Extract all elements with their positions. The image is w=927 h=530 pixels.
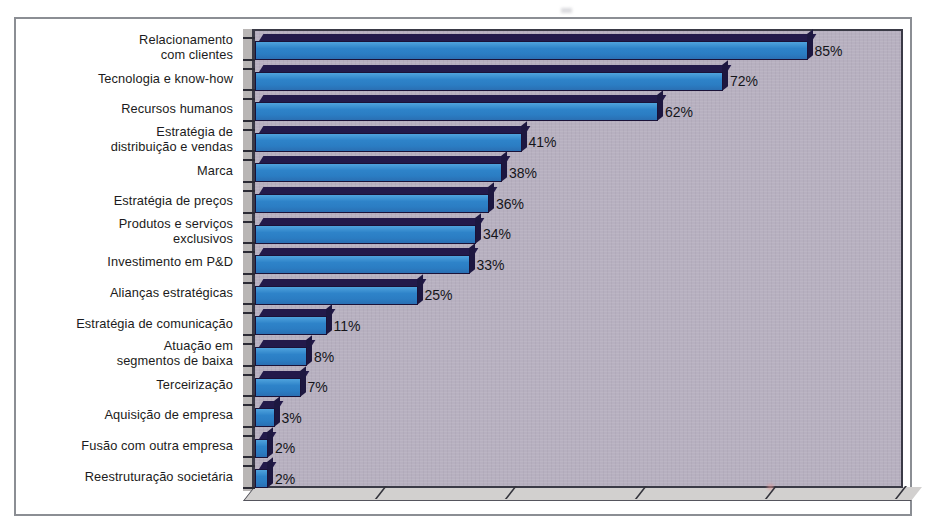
bar-value-label: 85% (815, 43, 843, 59)
category-tick-mark (243, 98, 255, 100)
bar-value-label: 3% (282, 410, 302, 426)
category-label: Alianças estratégicas (110, 285, 233, 300)
category-tick-mark (243, 465, 255, 467)
category-label: Reestruturação societária (85, 468, 233, 483)
category-tick-mark (243, 426, 255, 428)
category-label: Fusão com outra empresa (81, 438, 233, 453)
category-tick-mark (243, 404, 255, 406)
category-tick-mark (243, 312, 255, 314)
bar-value-label: 36% (496, 196, 524, 212)
bar: 3% (255, 408, 275, 427)
bar: 8% (255, 347, 307, 366)
category-tick-mark (243, 374, 255, 376)
bar-row: Tecnologia e know-how72% (255, 63, 901, 94)
category-label: Relacionamento com clientes (139, 32, 233, 62)
bar-front-face (255, 72, 723, 91)
bar-front-face (255, 439, 268, 458)
bar-row: Aquisição de empresa3% (255, 399, 901, 430)
bar: 34% (255, 225, 476, 244)
bar-front-face (255, 286, 418, 305)
bar: 62% (255, 102, 658, 121)
category-tick-mark (243, 242, 255, 244)
category-label: Estratégia de preços (114, 193, 233, 208)
bar-top-face-3d (259, 126, 530, 133)
category-tick-mark (243, 303, 255, 305)
category-tick-mark (243, 251, 255, 253)
bar-top-face-3d (259, 218, 484, 225)
bar-row: Estratégia de comunicação11% (255, 307, 901, 338)
category-tick-mark (243, 282, 255, 284)
bar-top-face-3d (259, 187, 497, 194)
bar: 72% (255, 72, 723, 91)
category-tick-mark (243, 365, 255, 367)
bar: 2% (255, 469, 268, 488)
bar-row: Atuação em segmentos de baixa8% (255, 338, 901, 369)
bar-front-face (255, 41, 808, 60)
category-tick-mark (243, 487, 255, 489)
category-tick-mark (243, 37, 255, 39)
category-label: Investimento em P&D (107, 254, 233, 269)
bar-front-face (255, 255, 470, 274)
bar: 11% (255, 316, 327, 335)
category-tick-mark (243, 129, 255, 131)
category-label: Estratégia de distribuição e vendas (111, 124, 233, 154)
category-tick-mark (243, 343, 255, 345)
category-tick-mark (243, 273, 255, 275)
category-tick-mark (243, 221, 255, 223)
bar-row: Produtos e serviços exclusivos34% (255, 216, 901, 247)
scan-artifact-smudge (561, 8, 572, 13)
category-tick-mark (243, 89, 255, 91)
plot-area: Relacionamento com clientes85%Tecnologia… (253, 29, 903, 488)
category-tick-mark (243, 190, 255, 192)
bar-front-face (255, 347, 307, 366)
bar-front-face (255, 102, 658, 121)
bar-top-face-3d (259, 309, 335, 316)
bar-value-label: 34% (483, 226, 511, 242)
bar-value-label: 25% (425, 287, 453, 303)
bar-front-face (255, 378, 301, 397)
bar-value-label: 62% (665, 104, 693, 120)
category-tick-mark (243, 435, 255, 437)
bar: 33% (255, 255, 470, 274)
bar-top-face-3d (259, 34, 816, 41)
bar-row: Relacionamento com clientes85% (255, 32, 901, 63)
category-tick-mark (243, 120, 255, 122)
bar-row: Fusão com outra empresa2% (255, 430, 901, 461)
bar: 41% (255, 133, 522, 152)
category-tick-mark (243, 181, 255, 183)
bar-row: Estratégia de distribuição e vendas41% (255, 124, 901, 155)
category-label: Marca (197, 162, 233, 177)
category-tick-mark (243, 68, 255, 70)
bar-value-label: 41% (529, 134, 557, 150)
category-tick-mark (243, 395, 255, 397)
category-tick-mark (243, 59, 255, 61)
category-tick-mark (243, 456, 255, 458)
category-tick-mark (243, 159, 255, 161)
bar-value-label: 33% (477, 257, 505, 273)
bar-value-label: 11% (334, 318, 361, 334)
bar-front-face (255, 408, 275, 427)
bar-front-face (255, 225, 476, 244)
bar-top-face-3d (259, 279, 426, 286)
bar-front-face (255, 194, 489, 213)
bar-row: Terceirização7% (255, 369, 901, 400)
bar-top-face-3d (259, 95, 666, 102)
category-label: Tecnologia e know-how (98, 70, 233, 85)
bar-front-face (255, 469, 268, 488)
bar-row: Investimento em P&D33% (255, 246, 901, 277)
bar-value-label: 72% (730, 73, 758, 89)
bar-front-face (255, 316, 327, 335)
category-label: Atuação em segmentos de baixa (117, 338, 233, 368)
bar-front-face (255, 163, 502, 182)
category-label: Produtos e serviços exclusivos (119, 216, 233, 246)
bar: 85% (255, 41, 808, 60)
bar-row: Estratégia de preços36% (255, 185, 901, 216)
bar-row: Reestruturação societária2% (255, 460, 901, 491)
bar: 38% (255, 163, 502, 182)
bar-value-label: 2% (275, 471, 295, 487)
category-label: Terceirização (156, 376, 233, 391)
bar: 36% (255, 194, 489, 213)
bar-top-face-3d (259, 65, 731, 72)
bar: 7% (255, 378, 301, 397)
bar-front-face (255, 133, 522, 152)
